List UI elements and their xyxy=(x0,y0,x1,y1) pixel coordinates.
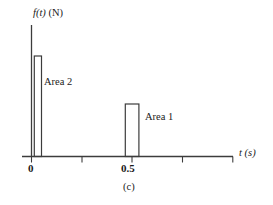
x-tick-label-0-5: 0.5 xyxy=(121,163,135,174)
pulse-bar-area-1 xyxy=(125,104,139,157)
y-axis-label-variable: f(t) xyxy=(33,7,46,18)
pulse-bar-area-2 xyxy=(34,56,41,157)
x-tick-label-0: 0 xyxy=(28,163,34,174)
y-axis-label: f(t) (N) xyxy=(33,8,63,19)
annotation-area-1: Area 1 xyxy=(145,112,173,123)
annotation-area-2: Area 2 xyxy=(44,77,72,88)
impulse-function-figure: f(t) (N) t (s) Area 2 Area 1 0 0.5 (c) xyxy=(0,0,273,205)
plot-canvas xyxy=(0,0,273,205)
y-axis-label-unit: (N) xyxy=(48,7,63,18)
x-axis-label-unit: (s) xyxy=(245,147,256,158)
x-axis-label: t (s) xyxy=(239,148,256,159)
panel-caption: (c) xyxy=(123,182,135,193)
